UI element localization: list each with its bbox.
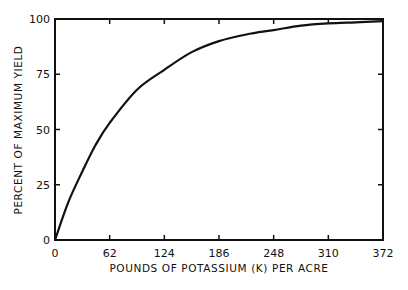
y-tick-label: 0 bbox=[43, 234, 50, 247]
y-tick-label: 50 bbox=[36, 124, 50, 137]
y-tick-label: 25 bbox=[36, 179, 50, 192]
y-tick-label: 100 bbox=[29, 13, 50, 26]
x-tick-label: 372 bbox=[373, 247, 394, 260]
x-tick-label: 62 bbox=[103, 247, 117, 260]
x-tick-label: 310 bbox=[318, 247, 339, 260]
y-tick-label: 75 bbox=[36, 68, 50, 81]
y-axis-label: PERCENT OF MAXIMUM YIELD bbox=[12, 45, 24, 214]
x-axis-label: POUNDS OF POTASSIUM (K) PER ACRE bbox=[109, 262, 328, 274]
y-tick-labels: 0255075100 bbox=[29, 13, 50, 247]
x-tick-label: 186 bbox=[209, 247, 230, 260]
x-tick-label: 124 bbox=[154, 247, 175, 260]
yield-chart: 062124186248310372 0255075100 POUNDS OF … bbox=[0, 0, 408, 290]
x-tick-labels: 062124186248310372 bbox=[52, 247, 394, 260]
x-tick-label: 248 bbox=[263, 247, 284, 260]
yield-curve bbox=[55, 21, 383, 240]
x-tick-label: 0 bbox=[52, 247, 59, 260]
